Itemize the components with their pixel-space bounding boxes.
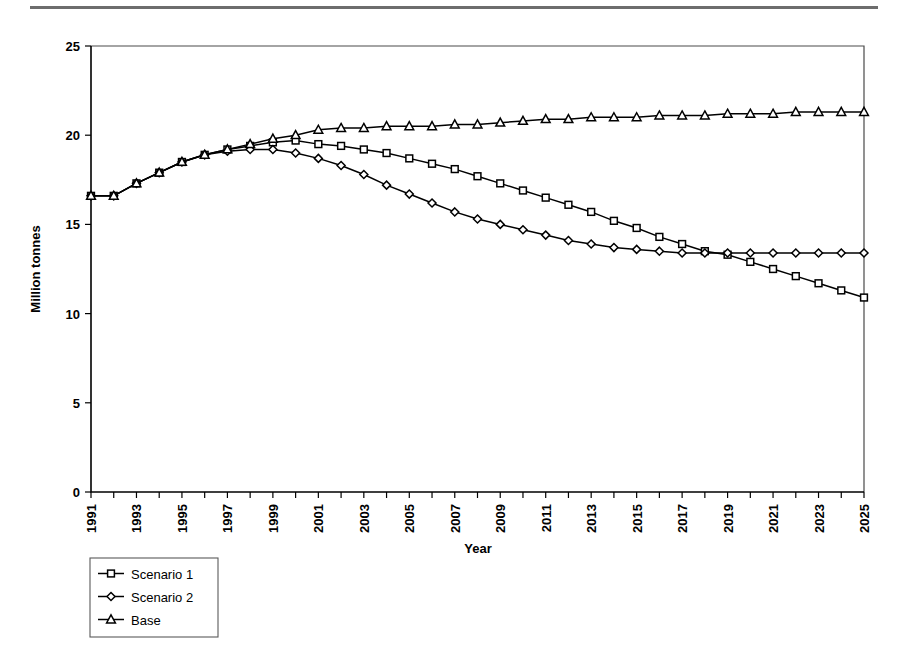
data-point <box>860 249 868 257</box>
data-point <box>656 233 663 240</box>
data-point <box>587 240 595 248</box>
data-point <box>746 249 754 257</box>
data-point <box>360 146 367 153</box>
x-tick-label: 2007 <box>448 504 463 533</box>
y-tick-label: 15 <box>66 217 80 232</box>
y-tick-label: 25 <box>66 39 80 54</box>
line-chart: 0510152025 19911993199519971999200120032… <box>0 0 908 662</box>
data-point <box>792 273 799 280</box>
data-point <box>520 187 527 194</box>
x-tick-label: 1993 <box>129 504 144 533</box>
x-tick-label: 2003 <box>357 504 372 533</box>
data-point <box>770 266 777 273</box>
data-point <box>679 241 686 248</box>
data-series-base <box>87 107 869 199</box>
x-tick-label: 2013 <box>584 504 599 533</box>
x-tick-label: 2025 <box>857 504 872 533</box>
data-point <box>314 154 322 162</box>
data-point <box>633 225 640 232</box>
data-point <box>383 181 391 189</box>
data-point <box>337 162 345 170</box>
data-point <box>633 245 641 253</box>
legend-label: Scenario 1 <box>131 567 193 582</box>
data-point <box>861 294 868 301</box>
data-point <box>292 149 300 157</box>
data-point <box>564 236 572 244</box>
data-point <box>769 249 777 257</box>
chart-legend[interactable]: Scenario 1Scenario 2Base <box>90 558 218 637</box>
legend-label: Scenario 2 <box>131 590 193 605</box>
x-tick-label: 1999 <box>266 504 281 533</box>
data-point <box>747 258 754 265</box>
data-point <box>428 199 436 207</box>
data-point <box>611 217 618 224</box>
data-point <box>655 247 663 255</box>
data-point <box>610 244 618 252</box>
data-point <box>678 249 686 257</box>
page-root: 0510152025 19911993199519971999200120032… <box>0 0 908 662</box>
x-tick-label: 2005 <box>402 504 417 533</box>
data-point <box>588 209 595 216</box>
chart-figure: 0510152025 19911993199519971999200120032… <box>0 0 908 662</box>
x-tick-label: 2019 <box>721 504 736 533</box>
x-axis: 1991199319951997199920012003200520072009… <box>84 492 872 533</box>
x-tick-label: 2017 <box>675 504 690 533</box>
x-tick-label: 2011 <box>539 504 554 532</box>
data-point <box>429 160 436 167</box>
data-point <box>496 220 504 228</box>
x-tick-label: 2023 <box>812 504 827 533</box>
x-tick-label: 2021 <box>766 504 781 533</box>
data-point <box>542 194 549 201</box>
y-tick-label: 10 <box>66 307 80 322</box>
data-point <box>269 145 277 153</box>
x-axis-title: Year <box>464 541 491 556</box>
data-point <box>815 249 823 257</box>
series-layer <box>87 107 869 301</box>
data-point <box>315 141 322 148</box>
data-point <box>792 249 800 257</box>
data-point <box>565 201 572 208</box>
data-point <box>838 287 845 294</box>
data-point <box>519 226 527 234</box>
data-point <box>474 173 481 180</box>
data-series-scenario-2 <box>87 145 868 256</box>
data-point <box>815 280 822 287</box>
x-tick-label: 2009 <box>493 504 508 533</box>
data-point <box>451 208 459 216</box>
y-tick-label: 5 <box>73 396 80 411</box>
y-axis-title: Million tonnes <box>28 225 43 312</box>
data-point <box>451 166 458 173</box>
square-marker-icon <box>108 570 115 577</box>
x-tick-label: 2001 <box>311 504 326 533</box>
data-point <box>474 215 482 223</box>
y-tick-label: 20 <box>66 128 80 143</box>
data-point <box>383 150 390 157</box>
data-point <box>360 170 368 178</box>
data-point <box>338 143 345 150</box>
data-point <box>837 249 845 257</box>
y-axis: 0510152025 <box>66 39 91 500</box>
x-tick-label: 1991 <box>84 504 99 533</box>
y-tick-label: 0 <box>73 485 80 500</box>
x-tick-label: 2015 <box>630 504 645 533</box>
x-tick-label: 1997 <box>220 504 235 533</box>
data-point <box>405 190 413 198</box>
legend-label: Base <box>131 613 161 628</box>
data-point <box>406 155 413 162</box>
x-tick-label: 1995 <box>175 504 190 533</box>
data-point <box>497 180 504 187</box>
data-point <box>542 231 550 239</box>
